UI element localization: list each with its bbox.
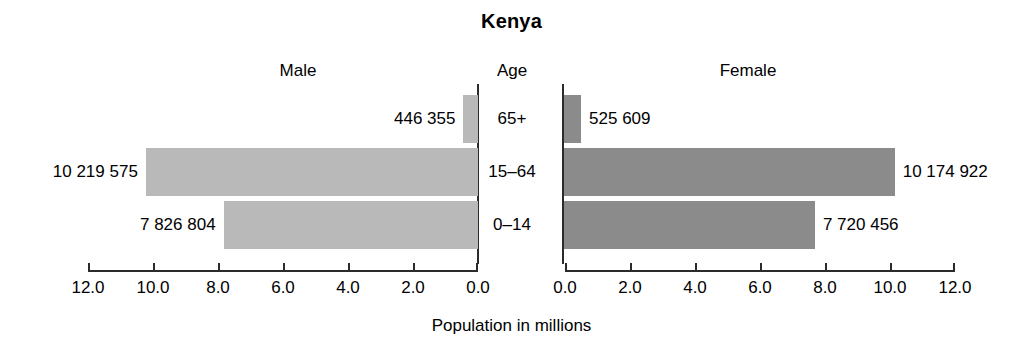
x-axis-tick-label: 4.0 xyxy=(665,278,725,298)
x-axis-tick-label: 12.0 xyxy=(58,278,118,298)
axis-tick xyxy=(760,263,762,270)
chart-title: Kenya xyxy=(0,10,1023,33)
axis-tick xyxy=(348,263,350,270)
column-header-age: Age xyxy=(480,61,544,81)
male-bar xyxy=(224,201,478,249)
x-axis-tick-label: 0.0 xyxy=(448,278,508,298)
age-group-label: 15–64 xyxy=(481,162,543,182)
axis-tick xyxy=(565,263,567,270)
x-axis-tick-label: 2.0 xyxy=(383,278,443,298)
male-value-label: 7 826 804 xyxy=(0,201,216,249)
axis-tick xyxy=(825,263,827,270)
axis-tick xyxy=(630,263,632,270)
female-x-axis xyxy=(565,270,955,272)
column-header-male: Male xyxy=(218,61,378,81)
axis-tick xyxy=(953,263,955,270)
axis-tick xyxy=(890,263,892,270)
male-value-label: 446 355 xyxy=(0,95,455,143)
axis-tick xyxy=(218,263,220,270)
age-group-label: 0–14 xyxy=(481,215,543,235)
male-bar xyxy=(463,95,478,143)
female-bar xyxy=(564,201,815,249)
x-axis-tick-label: 0.0 xyxy=(535,278,595,298)
x-axis-title: Population in millions xyxy=(0,316,1023,336)
x-axis-tick-label: 4.0 xyxy=(318,278,378,298)
female-value-label: 525 609 xyxy=(589,95,650,143)
x-axis-tick-label: 10.0 xyxy=(860,278,920,298)
axis-tick xyxy=(695,263,697,270)
axis-tick xyxy=(283,263,285,270)
female-value-label: 10 174 922 xyxy=(903,148,988,196)
x-axis-tick-label: 10.0 xyxy=(123,278,183,298)
male-x-axis xyxy=(88,270,478,272)
x-axis-tick-label: 12.0 xyxy=(925,278,985,298)
x-axis-tick-label: 6.0 xyxy=(253,278,313,298)
axis-tick xyxy=(413,263,415,270)
x-axis-tick-label: 6.0 xyxy=(730,278,790,298)
axis-tick xyxy=(153,263,155,270)
axis-tick xyxy=(476,263,478,270)
column-header-female: Female xyxy=(668,61,828,81)
population-pyramid-chart: Kenya Male Age Female 65+ 15–64 0–14 Pop… xyxy=(0,0,1023,358)
female-value-label: 7 720 456 xyxy=(823,201,899,249)
female-bar xyxy=(564,95,581,143)
x-axis-tick-label: 8.0 xyxy=(795,278,855,298)
male-value-label: 10 219 575 xyxy=(0,148,138,196)
female-bar xyxy=(564,148,895,196)
x-axis-tick-label: 2.0 xyxy=(600,278,660,298)
axis-tick xyxy=(88,263,90,270)
x-axis-tick-label: 8.0 xyxy=(188,278,248,298)
age-group-label: 65+ xyxy=(481,109,543,129)
male-bar xyxy=(146,148,478,196)
